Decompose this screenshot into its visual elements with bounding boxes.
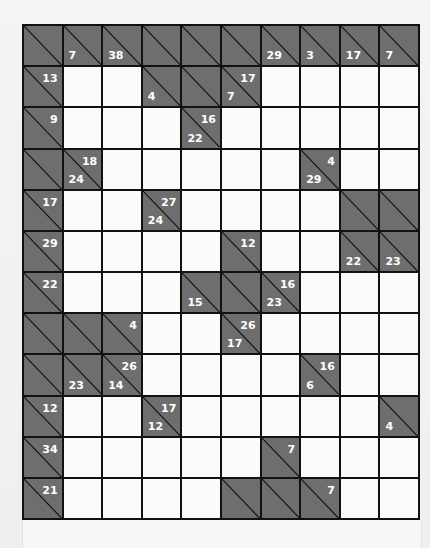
- entry-cell[interactable]: [64, 273, 102, 312]
- entry-cell[interactable]: [103, 438, 141, 477]
- entry-cell[interactable]: [103, 191, 141, 230]
- entry-cell[interactable]: [103, 273, 141, 312]
- entry-cell[interactable]: [143, 232, 181, 271]
- clue-block-cell: 34: [24, 438, 62, 477]
- entry-cell[interactable]: [103, 397, 141, 436]
- entry-cell[interactable]: [380, 150, 418, 189]
- entry-cell[interactable]: [380, 438, 418, 477]
- down-clue: 14: [108, 380, 123, 391]
- entry-cell[interactable]: [380, 67, 418, 106]
- clue-block-cell: [64, 314, 102, 353]
- entry-cell[interactable]: [262, 108, 300, 147]
- entry-cell[interactable]: [341, 397, 379, 436]
- entry-cell[interactable]: [301, 438, 339, 477]
- entry-cell[interactable]: [143, 355, 181, 394]
- entry-cell[interactable]: [222, 355, 260, 394]
- entry-cell[interactable]: [143, 150, 181, 189]
- entry-cell[interactable]: [341, 314, 379, 353]
- clue-block-cell: 4: [103, 314, 141, 353]
- entry-cell[interactable]: [64, 232, 102, 271]
- entry-cell[interactable]: [182, 438, 220, 477]
- clue-block-cell: 7: [262, 438, 300, 477]
- entry-cell[interactable]: [182, 232, 220, 271]
- entry-cell[interactable]: [143, 314, 181, 353]
- entry-cell[interactable]: [380, 108, 418, 147]
- across-clue: 9: [50, 114, 58, 125]
- down-clue: 24: [148, 215, 163, 226]
- clue-block-cell: 2724: [143, 191, 181, 230]
- clue-block-cell: [24, 355, 62, 394]
- down-clue: 23: [267, 297, 282, 308]
- entry-cell[interactable]: [64, 191, 102, 230]
- kakuro-grid: 7382931771341779162218244291727242912222…: [22, 24, 420, 520]
- entry-cell[interactable]: [262, 397, 300, 436]
- across-clue: 17: [42, 197, 57, 208]
- entry-cell[interactable]: [262, 232, 300, 271]
- entry-cell[interactable]: [222, 108, 260, 147]
- entry-cell[interactable]: [341, 67, 379, 106]
- down-clue: 23: [69, 380, 84, 391]
- entry-cell[interactable]: [143, 108, 181, 147]
- entry-cell[interactable]: [262, 67, 300, 106]
- entry-cell[interactable]: [222, 397, 260, 436]
- entry-cell[interactable]: [64, 397, 102, 436]
- entry-cell[interactable]: [341, 479, 379, 518]
- clue-block-cell: 9: [24, 108, 62, 147]
- diagonal-divider-icon: [222, 479, 260, 518]
- entry-cell[interactable]: [222, 191, 260, 230]
- entry-cell[interactable]: [143, 438, 181, 477]
- entry-cell[interactable]: [341, 355, 379, 394]
- entry-cell[interactable]: [380, 479, 418, 518]
- entry-cell[interactable]: [341, 108, 379, 147]
- entry-cell[interactable]: [143, 479, 181, 518]
- entry-cell[interactable]: [380, 314, 418, 353]
- entry-cell[interactable]: [182, 397, 220, 436]
- entry-cell[interactable]: [341, 150, 379, 189]
- entry-cell[interactable]: [64, 108, 102, 147]
- entry-cell[interactable]: [380, 355, 418, 394]
- entry-cell[interactable]: [301, 314, 339, 353]
- entry-cell[interactable]: [380, 273, 418, 312]
- entry-cell[interactable]: [182, 314, 220, 353]
- across-clue: 16: [280, 279, 295, 290]
- entry-cell[interactable]: [182, 479, 220, 518]
- entry-cell[interactable]: [222, 438, 260, 477]
- entry-cell[interactable]: [301, 232, 339, 271]
- entry-cell[interactable]: [64, 479, 102, 518]
- entry-cell[interactable]: [301, 108, 339, 147]
- across-clue: 16: [201, 114, 216, 125]
- diagonal-divider-icon: [341, 191, 379, 230]
- entry-cell[interactable]: [262, 150, 300, 189]
- entry-cell[interactable]: [103, 150, 141, 189]
- entry-cell[interactable]: [64, 67, 102, 106]
- entry-cell[interactable]: [301, 191, 339, 230]
- entry-cell[interactable]: [301, 273, 339, 312]
- across-clue: 34: [42, 444, 57, 455]
- across-clue: 7: [327, 485, 335, 496]
- entry-cell[interactable]: [262, 314, 300, 353]
- entry-cell[interactable]: [182, 191, 220, 230]
- down-clue: 4: [385, 421, 393, 432]
- entry-cell[interactable]: [103, 479, 141, 518]
- entry-cell[interactable]: [341, 273, 379, 312]
- entry-cell[interactable]: [103, 232, 141, 271]
- entry-cell[interactable]: [222, 150, 260, 189]
- entry-cell[interactable]: [182, 150, 220, 189]
- entry-cell[interactable]: [262, 191, 300, 230]
- entry-cell[interactable]: [301, 397, 339, 436]
- clue-block-cell: 21: [24, 479, 62, 518]
- entry-cell[interactable]: [103, 108, 141, 147]
- down-clue: 23: [385, 256, 400, 267]
- entry-cell[interactable]: [143, 273, 181, 312]
- entry-cell[interactable]: [103, 67, 141, 106]
- entry-cell[interactable]: [262, 355, 300, 394]
- entry-cell[interactable]: [341, 438, 379, 477]
- entry-cell[interactable]: [182, 355, 220, 394]
- entry-cell[interactable]: [301, 67, 339, 106]
- down-clue: 17: [227, 338, 242, 349]
- across-clue: 16: [319, 361, 334, 372]
- diagonal-divider-icon: [222, 26, 260, 65]
- entry-cell[interactable]: [64, 438, 102, 477]
- clue-block-cell: 17: [341, 26, 379, 65]
- diagonal-divider-icon: [380, 191, 418, 230]
